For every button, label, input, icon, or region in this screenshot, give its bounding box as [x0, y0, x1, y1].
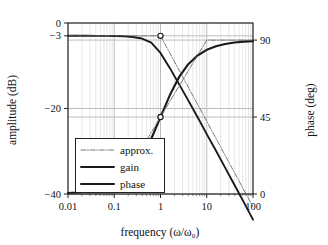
x-tick-label: 1: [158, 201, 163, 212]
y-axis-label: amplitude (dB): [6, 75, 19, 145]
data-marker-gain: [158, 33, 163, 38]
x-tick-label: 10: [202, 201, 213, 212]
x-tick-label: 100: [245, 201, 261, 212]
y-tick-label: −3: [50, 30, 61, 41]
y-tick-label: 0: [56, 18, 61, 29]
legend-label-gain: gain: [120, 161, 139, 173]
y2-axis-label: phase (deg): [304, 83, 317, 136]
legend-label-approx: approx.: [120, 144, 154, 156]
x-axis-label: frequency (ω/ω₀): [121, 226, 200, 239]
y2-tick-label: 0: [260, 189, 265, 200]
y2-tick-label: 90: [260, 35, 271, 46]
bode-plot-figure: 0.010.1110100 0−3−20−40 90450 frequency …: [0, 0, 328, 245]
y-tick-label: −20: [45, 103, 61, 114]
y2-tick-label: 45: [260, 112, 271, 123]
y-tick-label: −40: [45, 189, 61, 200]
x-tick-label: 0.01: [59, 201, 77, 212]
legend-label-phase: phase: [120, 178, 145, 190]
data-marker-phase: [158, 114, 163, 119]
x-tick-label: 0.1: [108, 201, 121, 212]
legend[interactable]: approx.gainphase: [76, 139, 165, 193]
